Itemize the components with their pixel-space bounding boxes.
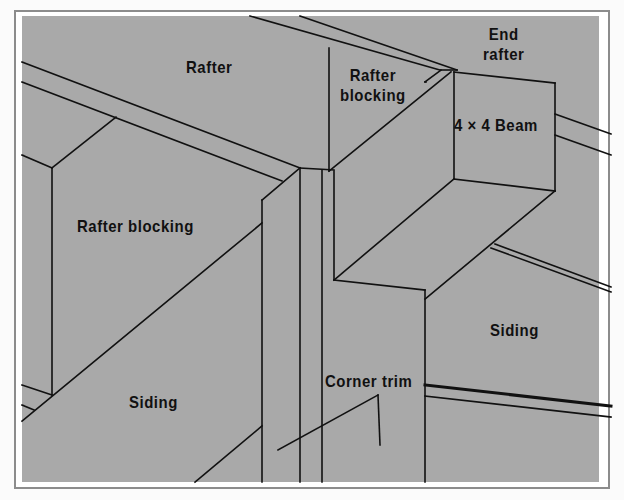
label-rafter: Rafter — [186, 58, 232, 78]
label-end-rafter-line1: End — [483, 25, 524, 45]
label-siding-left: Siding — [129, 393, 178, 413]
label-end-rafter: End rafter — [483, 25, 524, 65]
label-corner-trim: Corner trim — [325, 372, 412, 392]
label-end-rafter-line2: rafter — [483, 45, 524, 65]
framing-diagram — [0, 0, 624, 500]
label-rafter-blocking-left: Rafter blocking — [77, 217, 194, 237]
label-rafter-blocking-top: Rafter blocking — [340, 66, 406, 106]
diagram-panel — [22, 16, 599, 482]
label-siding-right: Siding — [490, 321, 539, 341]
label-rafter-blocking-top-line2: blocking — [340, 86, 406, 106]
label-beam: 4 × 4 Beam — [454, 116, 538, 136]
label-rafter-blocking-top-line1: Rafter — [340, 66, 406, 86]
